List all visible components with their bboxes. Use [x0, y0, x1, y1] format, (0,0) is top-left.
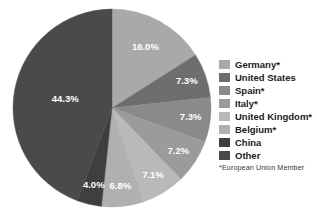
legend-item-label: China: [235, 137, 261, 148]
legend-color-swatch: [219, 60, 230, 69]
legend-item-label: Spain*: [235, 85, 265, 96]
legend-item[interactable]: United Kingdom*: [219, 110, 317, 123]
legend-item[interactable]: Spain*: [219, 84, 317, 97]
pie-chart-svg: 16.0%7.3%7.3%7.2%7.1%6.8%4.0%44.3%: [12, 8, 212, 208]
legend-color-swatch: [219, 99, 230, 108]
pie-slice-value-label: 7.2%: [168, 145, 190, 156]
legend-color-swatch: [219, 151, 230, 160]
pie-slice-value-label: 4.0%: [83, 179, 105, 190]
pie-slice-value-label: 44.3%: [52, 93, 79, 104]
pie-slice-value-label: 7.3%: [180, 111, 202, 122]
pie-slice-group: [13, 9, 211, 207]
legend-color-swatch: [219, 138, 230, 147]
pie-slice-value-label: 6.8%: [110, 180, 132, 191]
chart-legend: Germany*United StatesSpain*Italy*United …: [219, 58, 317, 162]
pie-chart-plot-area: 16.0%7.3%7.3%7.2%7.1%6.8%4.0%44.3%: [12, 8, 212, 208]
pie-chart-figure: 16.0%7.3%7.3%7.2%7.1%6.8%4.0%44.3% Germa…: [0, 0, 317, 216]
legend-item-label: Germany*: [235, 59, 280, 70]
pie-slice-value-label: 7.1%: [142, 169, 164, 180]
legend-item-label: United States: [235, 72, 296, 83]
legend-color-swatch: [219, 73, 230, 82]
legend-item-label: Other: [235, 150, 260, 161]
legend-item[interactable]: Germany*: [219, 58, 317, 71]
legend-item[interactable]: China: [219, 136, 317, 149]
legend-item[interactable]: Other: [219, 149, 317, 162]
pie-slice-value-label: 16.0%: [132, 41, 159, 52]
legend-item[interactable]: Italy*: [219, 97, 317, 110]
legend-color-swatch: [219, 112, 230, 121]
legend-item-label: United Kingdom*: [235, 111, 312, 122]
legend-item[interactable]: Belgium*: [219, 123, 317, 136]
legend-item[interactable]: United States: [219, 71, 317, 84]
legend-footnote: *European Union Member: [219, 163, 304, 172]
pie-slice-value-label: 7.3%: [176, 75, 198, 86]
legend-color-swatch: [219, 86, 230, 95]
legend-item-label: Italy*: [235, 98, 258, 109]
legend-color-swatch: [219, 125, 230, 134]
legend-item-label: Belgium*: [235, 124, 276, 135]
